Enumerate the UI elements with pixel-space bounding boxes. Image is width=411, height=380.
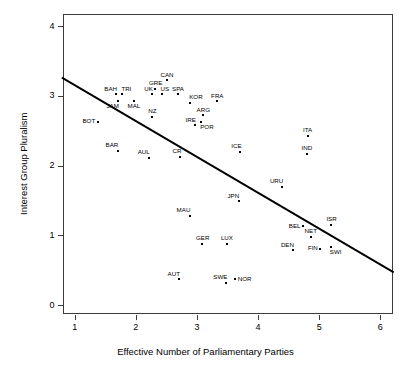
x-tick [258,315,259,320]
point-label: FIN [308,245,318,251]
point-label: CAN [161,72,174,78]
y-tick-label: 3 [25,91,55,100]
point-label: NZ [148,108,156,114]
point-label: POR [200,124,213,130]
point-label: GER [196,235,209,241]
data-point [117,150,119,152]
data-point [202,114,204,116]
data-point [310,236,312,238]
point-label: SPA [172,86,184,92]
data-point [330,224,332,226]
y-tick-label: 4 [25,22,55,31]
point-label: SWI [330,249,342,255]
y-tick [58,305,63,306]
point-label: IRE [186,117,196,123]
x-tick-label: 5 [304,323,334,332]
point-label: URU [270,178,283,184]
data-point [161,93,163,95]
data-point [292,249,294,251]
y-tick [58,26,63,27]
y-tick-label: 0 [25,301,55,310]
point-label: TRI [121,86,131,92]
y-tick [58,96,63,97]
point-label: US [161,86,170,92]
point-label: JPN [228,193,240,199]
point-label: JAM [107,103,119,109]
y-tick [58,235,63,236]
point-label: NET [305,228,317,234]
data-point [151,93,153,95]
point-label: ARG [197,107,210,113]
data-point [177,93,179,95]
data-point [306,153,308,155]
data-point [238,200,240,202]
point-label: ISR [326,216,336,222]
x-tick [136,315,137,320]
x-tick-label: 1 [60,323,90,332]
point-label: BAH [104,86,117,92]
point-label: BAR [106,142,119,148]
point-label: NOR [238,276,252,282]
y-tick-label: 2 [25,161,55,170]
x-tick [197,315,198,320]
data-point [189,102,191,104]
data-point [239,151,241,153]
y-tick [58,166,63,167]
point-label: MAU [177,207,191,213]
data-point [148,157,150,159]
scatter-chart: BOTBAHTRIJAMMALBARAULNZUKGREUSCANSPACRAU… [0,0,411,380]
data-point [194,124,196,126]
point-label: ICE [231,143,241,149]
x-tick-label: 3 [182,323,212,332]
data-point [216,100,218,102]
data-point [319,248,321,250]
y-axis-label: Interest Group Pluralism [18,112,29,214]
point-label: CR [172,148,181,154]
point-label: BEL [289,223,301,229]
point-label: UK [144,86,153,92]
point-label: FRA [211,93,223,99]
data-point [189,215,191,217]
data-point [178,278,180,280]
data-point [151,116,153,118]
x-tick [319,315,320,320]
data-point [121,93,123,95]
data-point [307,135,309,137]
data-point [225,282,227,284]
point-label: ITA [303,127,312,133]
x-tick [75,315,76,320]
data-point [179,156,181,158]
x-tick-label: 6 [365,323,395,332]
point-label: DEN [281,242,294,248]
point-label: IND [301,145,312,151]
data-point [166,79,168,81]
x-tick-label: 4 [243,323,273,332]
data-point [234,278,236,280]
point-label: BOT [82,118,95,124]
data-point [115,93,117,95]
point-label: LUX [221,235,233,241]
data-point [226,243,228,245]
data-point [281,186,283,188]
data-point [154,88,156,90]
data-point [302,225,304,227]
point-label: SWE [213,274,227,280]
point-label: MAL [128,103,141,109]
data-point [201,243,203,245]
data-point [97,121,99,123]
point-label: AUL [138,149,150,155]
x-tick-label: 2 [121,323,151,332]
x-tick [380,315,381,320]
point-label: AUT [168,271,180,277]
y-tick-label: 1 [25,231,55,240]
x-axis-label: Effective Number of Parliamentary Partie… [0,346,411,357]
point-label: KOR [189,94,202,100]
